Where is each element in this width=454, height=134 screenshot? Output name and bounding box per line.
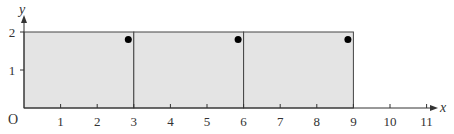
x-tick-label: 8 xyxy=(314,114,321,129)
y-tick-label: 1 xyxy=(9,63,16,78)
x-tick-label: 9 xyxy=(350,114,357,129)
origin-label: O xyxy=(8,112,18,127)
x-tick-label: 11 xyxy=(420,114,433,129)
diagram: 123456789101112 x y O xyxy=(0,0,454,134)
x-tick-label: 7 xyxy=(277,114,284,129)
x-tick-label: 1 xyxy=(57,114,64,129)
y-axis-label: y xyxy=(17,2,26,17)
data-point xyxy=(235,36,242,43)
x-tick-label: 10 xyxy=(384,114,397,129)
rectangle-2 xyxy=(134,32,244,108)
x-tick-label: 4 xyxy=(167,114,174,129)
data-point xyxy=(125,36,132,43)
data-point xyxy=(344,36,351,43)
rectangles xyxy=(24,32,353,108)
x-tick-label: 2 xyxy=(94,114,101,129)
x-tick-label: 5 xyxy=(204,114,211,129)
x-tick-label: 3 xyxy=(131,114,138,129)
x-arrow-icon xyxy=(430,105,438,111)
rectangle-3 xyxy=(244,32,354,108)
x-axis-label: x xyxy=(439,100,447,115)
x-tick-label: 6 xyxy=(240,114,247,129)
y-tick-label: 2 xyxy=(9,25,16,40)
rectangle-1 xyxy=(24,32,134,108)
